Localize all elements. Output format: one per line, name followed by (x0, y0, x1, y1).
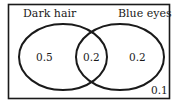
region-value-intersection: 0.2 (83, 51, 100, 63)
set-label-blue-eyes: Blue eyes (118, 7, 172, 20)
region-value-dark-hair-only: 0.5 (36, 51, 53, 63)
region-value-outside: 0.1 (151, 84, 168, 96)
set-label-dark-hair: Dark hair (23, 7, 77, 20)
venn-diagram: Dark hair Blue eyes 0.5 0.2 0.2 0.1 (0, 0, 177, 108)
region-value-blue-eyes-only: 0.2 (129, 51, 146, 63)
